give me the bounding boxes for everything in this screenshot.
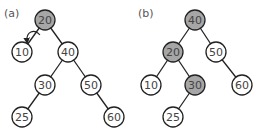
node-value: 25	[15, 111, 29, 124]
tree-node: 10	[12, 42, 32, 62]
tree-node: 30	[185, 75, 205, 95]
tree-node: 25	[163, 107, 183, 127]
node-value: 50	[209, 46, 223, 59]
tree-node: 60	[232, 75, 252, 95]
tree-node: 50	[206, 42, 226, 62]
node-value: 25	[166, 111, 180, 124]
tree-node: 20	[35, 10, 55, 30]
node-value: 10	[15, 46, 29, 59]
tree-node: 60	[104, 107, 124, 127]
node-value: 50	[84, 79, 98, 92]
tree-node: 25	[12, 107, 32, 127]
node-value: 60	[107, 111, 121, 124]
tree-node: 50	[81, 75, 101, 95]
node-value: 10	[144, 79, 158, 92]
node-value: 30	[38, 79, 52, 92]
tree-node: 40	[185, 10, 205, 30]
node-value: 40	[188, 14, 202, 27]
edges	[22, 20, 242, 117]
panel-label: (b)	[138, 7, 154, 20]
tree-rotation-diagram: 2010403050256040205010306025 (a)(b)	[0, 0, 266, 137]
node-value: 20	[166, 46, 180, 59]
node-value: 20	[38, 14, 52, 27]
node-value: 60	[235, 79, 249, 92]
panel-labels: (a)(b)	[4, 7, 154, 20]
tree-node: 30	[35, 75, 55, 95]
panel-label: (a)	[4, 7, 19, 20]
nodes: 2010403050256040205010306025	[12, 10, 252, 127]
node-value: 30	[188, 79, 202, 92]
node-value: 40	[61, 46, 75, 59]
tree-node: 10	[141, 75, 161, 95]
tree-node: 40	[58, 42, 78, 62]
tree-node: 20	[163, 42, 183, 62]
